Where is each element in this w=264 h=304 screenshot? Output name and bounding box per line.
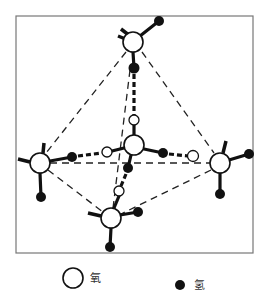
oxygen-legend-label: 氧 [90, 271, 101, 285]
oxygen-bottom [101, 208, 121, 228]
oxygen-top [123, 32, 143, 52]
oxygen-legend-icon [63, 268, 83, 288]
legend: 氧 氢 [63, 268, 205, 292]
ice-structure-diagram: 氧 氢 [0, 0, 264, 304]
hydrogen-legend-label: 氢 [194, 278, 205, 292]
hydrogen-legend-icon [175, 280, 185, 290]
hydrogen-atoms [36, 16, 254, 252]
oxygen-left [30, 153, 50, 173]
oxygen-atoms [30, 32, 230, 228]
tetrahedron-edges [46, 52, 214, 214]
oxygen-center [124, 135, 144, 155]
oxygen-right [210, 153, 230, 173]
